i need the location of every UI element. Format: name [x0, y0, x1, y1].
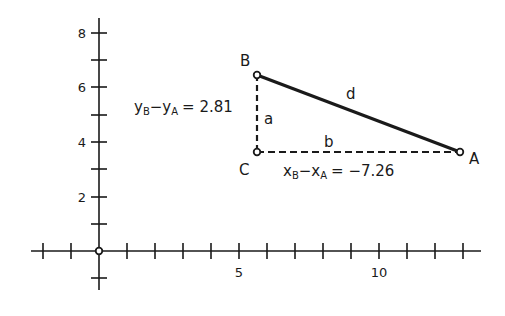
y-tick-label-6: 6: [78, 80, 86, 95]
eq-dx-var1: x: [283, 162, 292, 180]
eq-dy-op: −: [150, 98, 163, 116]
eq-dy-sub2: A: [171, 106, 178, 117]
eq-dy-value: = 2.81: [182, 98, 233, 116]
coordinate-diagram: 5 10 2 4 6 8 B C A a b d yB−yA= 2.81 xB−…: [0, 0, 505, 316]
y-tick-label-2: 2: [78, 190, 86, 205]
equation-dy: yB−yA= 2.81: [134, 98, 233, 117]
eq-dy-var1: y: [134, 98, 143, 116]
label-point-b: B: [240, 52, 250, 70]
y-tick-label-8: 8: [78, 26, 86, 41]
y-tick-label-4: 4: [78, 135, 86, 150]
label-point-c: C: [239, 161, 249, 179]
eq-dx-var2: x: [311, 162, 320, 180]
side-d-hypotenuse: [257, 75, 460, 152]
label-side-d: d: [346, 85, 356, 103]
x-tick-label-10: 10: [371, 265, 388, 280]
eq-dx-value: = −7.26: [331, 162, 394, 180]
eq-dy-var2: y: [162, 98, 171, 116]
point-a: [457, 149, 464, 156]
label-side-b: b: [324, 133, 334, 151]
equation-dx: xB−xA= −7.26: [283, 162, 394, 181]
point-b: [254, 72, 261, 79]
eq-dx-sub2: A: [320, 170, 327, 181]
origin-point: [96, 248, 103, 255]
x-tick-label-5: 5: [235, 265, 243, 280]
point-c: [254, 149, 261, 156]
label-point-a: A: [469, 150, 480, 168]
eq-dx-op: −: [299, 162, 312, 180]
label-side-a: a: [264, 110, 273, 128]
